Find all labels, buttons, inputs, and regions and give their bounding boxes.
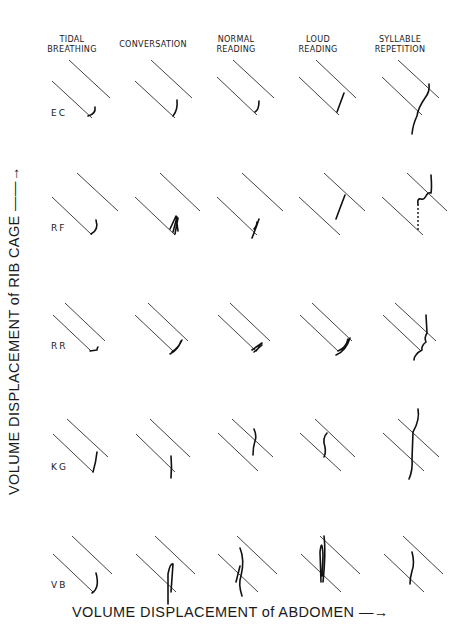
cell-kg-normal-reading xyxy=(218,419,273,471)
cell-kg-conversation xyxy=(136,419,190,478)
cell-kg-tidal xyxy=(53,419,108,472)
cell-rr-normal-reading xyxy=(218,303,270,352)
cell-ec-syllable-repetition xyxy=(382,60,439,134)
cell-rf-normal-reading xyxy=(217,173,283,238)
cell-rr-syllable-repetition xyxy=(383,303,436,360)
cell-rr-loud-reading xyxy=(300,303,352,355)
cell-vb-syllable-repetition xyxy=(384,536,443,592)
cell-rf-syllable-repetition xyxy=(382,173,447,235)
cell-rf-conversation xyxy=(135,173,200,235)
cell-kg-loud-reading xyxy=(300,419,355,471)
cell-ec-tidal xyxy=(52,60,110,118)
konno-mead-plot-grid xyxy=(0,0,470,644)
cell-ec-normal-reading xyxy=(217,60,274,115)
cell-vb-loud-reading xyxy=(301,536,360,592)
cell-ec-conversation xyxy=(135,60,192,118)
cell-rr-tidal xyxy=(53,303,105,351)
cell-rr-conversation xyxy=(135,303,188,354)
cell-kg-syllable-repetition xyxy=(383,409,439,479)
cell-vb-tidal xyxy=(53,536,112,593)
cell-vb-conversation xyxy=(136,536,195,604)
cell-vb-normal-reading xyxy=(218,536,277,596)
cell-ec-loud-reading xyxy=(299,60,356,115)
cell-rf-loud-reading xyxy=(299,173,365,235)
cell-rf-tidal xyxy=(52,173,118,235)
